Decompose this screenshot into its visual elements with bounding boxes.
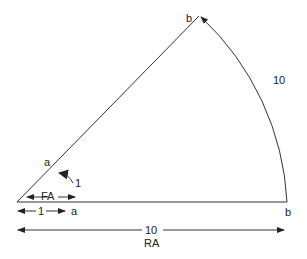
label-a-lower: a xyxy=(71,205,78,217)
label-angle: 1 xyxy=(75,177,81,189)
radian-diagram: b b a a 10 1 FA 1 10 RA xyxy=(0,0,307,259)
outer-arc xyxy=(201,17,287,202)
slanted-radius-line xyxy=(17,16,199,202)
label-unit-length: 1 xyxy=(38,205,44,217)
label-a-upper: a xyxy=(44,156,51,168)
label-b-right: b xyxy=(285,206,291,218)
label-arc-length: 10 xyxy=(273,74,285,86)
label-fa: FA xyxy=(41,190,55,202)
label-ra: RA xyxy=(144,237,160,249)
angle-arrow-arc xyxy=(60,173,73,183)
label-b-top: b xyxy=(186,12,192,24)
label-radius-length: 10 xyxy=(145,224,157,236)
